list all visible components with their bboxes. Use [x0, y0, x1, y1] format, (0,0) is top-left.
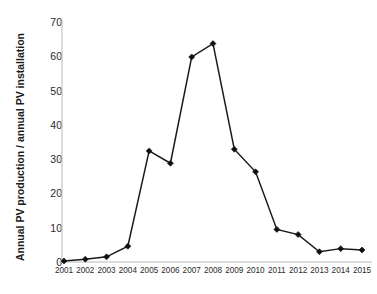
data-point-marker	[125, 243, 131, 249]
data-point-marker	[359, 247, 365, 253]
series-line	[64, 44, 362, 261]
x-tick-label: 2003	[97, 266, 115, 275]
chart-svg	[0, 0, 377, 294]
x-tick-label: 2008	[204, 266, 222, 275]
chart-container: Annual PV production / annual PV install…	[0, 0, 377, 294]
data-point-marker	[82, 256, 88, 262]
x-tick-label: 2013	[310, 266, 328, 275]
x-tick-label: 2004	[119, 266, 137, 275]
x-tick-label: 2001	[55, 266, 73, 275]
data-point-marker	[274, 226, 280, 232]
data-point-marker	[104, 254, 110, 260]
data-series	[61, 41, 365, 264]
x-tick-label: 2012	[289, 266, 307, 275]
data-point-marker	[338, 246, 344, 252]
x-tick-label: 2010	[246, 266, 264, 275]
x-tick-label: 2011	[268, 266, 286, 275]
x-tick-label: 2014	[332, 266, 350, 275]
x-tick-label: 2009	[225, 266, 243, 275]
x-tick-label: 2002	[76, 266, 94, 275]
x-tick-label: 2005	[140, 266, 158, 275]
x-tick-label: 2015	[353, 266, 371, 275]
x-tick-label: 2006	[161, 266, 179, 275]
x-tick-label: 2007	[183, 266, 201, 275]
data-point-marker	[146, 148, 152, 154]
data-point-marker	[167, 160, 173, 166]
plot-area	[0, 0, 377, 294]
